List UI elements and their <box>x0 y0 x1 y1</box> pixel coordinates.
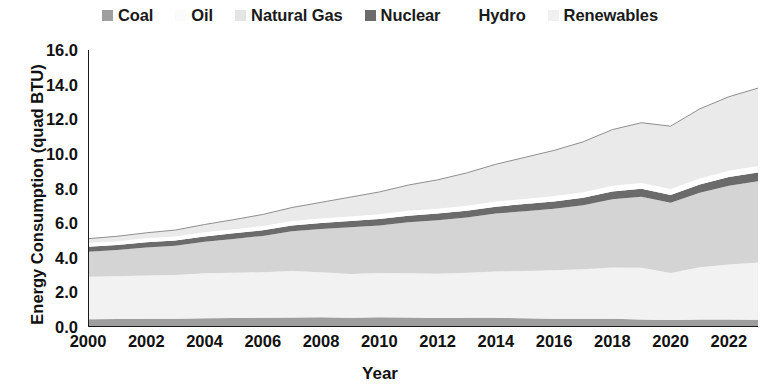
legend-item-nuclear: Nuclear <box>365 6 441 25</box>
energy-consumption-area-chart: Coal Oil Natural Gas Nuclear Hydro Renew… <box>0 0 760 390</box>
legend-swatch-natural-gas <box>235 10 246 21</box>
legend-label-coal: Coal <box>118 6 153 25</box>
legend-item-oil: Oil <box>175 6 213 25</box>
legend-label-oil: Oil <box>191 6 213 25</box>
chart-legend: Coal Oil Natural Gas Nuclear Hydro Renew… <box>0 2 760 28</box>
y-tick-label: 2.0 <box>8 283 78 302</box>
legend-item-coal: Coal <box>102 6 153 25</box>
x-tick-label: 2022 <box>694 332 760 351</box>
legend-label-renewables: Renewables <box>564 6 658 25</box>
legend-label-hydro: Hydro <box>478 6 525 25</box>
y-tick-label: 4.0 <box>8 249 78 268</box>
legend-swatch-renewables <box>548 10 559 21</box>
legend-swatch-hydro <box>462 10 473 21</box>
legend-item-renewables: Renewables <box>548 6 658 25</box>
legend-label-nuclear: Nuclear <box>381 6 441 25</box>
legend-item-hydro: Hydro <box>462 6 525 25</box>
y-tick-label: 8.0 <box>8 180 78 199</box>
legend-swatch-oil <box>175 10 186 21</box>
legend-swatch-coal <box>102 10 113 21</box>
y-tick-label: 12.0 <box>8 110 78 129</box>
y-tick-label: 14.0 <box>8 76 78 95</box>
plot-svg <box>88 50 758 327</box>
legend-label-natural-gas: Natural Gas <box>251 6 343 25</box>
x-axis-title: Year <box>0 364 760 384</box>
y-tick-label: 6.0 <box>8 214 78 233</box>
y-tick-label: 16.0 <box>8 41 78 60</box>
plot-area <box>88 50 758 327</box>
legend-swatch-nuclear <box>365 10 376 21</box>
y-tick-label: 10.0 <box>8 145 78 164</box>
legend-item-natural-gas: Natural Gas <box>235 6 343 25</box>
